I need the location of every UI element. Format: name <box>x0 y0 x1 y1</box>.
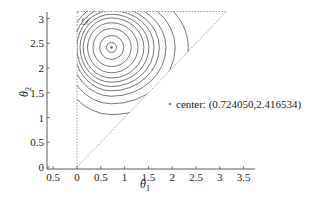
x-tick-label: 2.5 <box>189 171 203 183</box>
contour-plot: 0.500.511.522.533.500.511.522.53 θ1 θ2 𝒟… <box>0 0 310 201</box>
legend-marker-icon <box>169 103 172 106</box>
x-tick-label: 0 <box>74 171 80 183</box>
legend-label: center: (0.724050,2.416534) <box>176 98 302 111</box>
x-tick-label: 0.5 <box>46 171 60 183</box>
y-tick-label: 2 <box>39 62 45 74</box>
domain-label: 𝒟 <box>80 15 91 27</box>
x-tick-label: 3.5 <box>237 171 251 183</box>
y-tick-label: 3 <box>39 13 45 25</box>
x-tick-label: 1 <box>122 171 128 183</box>
y-tick-label: 2.5 <box>30 37 44 49</box>
chart-root: 0.500.511.522.533.500.511.522.53 θ1 θ2 𝒟… <box>0 0 310 201</box>
contour-line <box>80 14 149 82</box>
x-tick-label: 3 <box>217 171 223 183</box>
contour-line <box>83 18 144 78</box>
y-tick-label: 0.5 <box>30 136 44 148</box>
y-tick-label: 0 <box>39 161 45 173</box>
x-tick-label: 0.5 <box>94 171 108 183</box>
x-tick-label: 2 <box>169 171 175 183</box>
y-tick-label: 1 <box>39 112 45 124</box>
contour-line <box>88 23 138 73</box>
y-axis-label: θ2 <box>17 87 33 97</box>
center-marker <box>110 46 112 48</box>
